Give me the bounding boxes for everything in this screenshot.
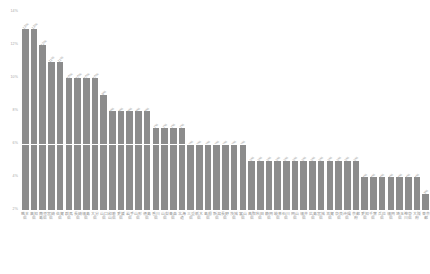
bar-slot[interactable]: 5% xyxy=(317,0,326,274)
x-axis-category-label: 石川県 xyxy=(282,212,291,220)
bar-slot[interactable]: 5% xyxy=(308,0,317,274)
bar[interactable] xyxy=(179,128,186,211)
bar-slot[interactable]: 8% xyxy=(134,0,143,274)
bar[interactable] xyxy=(283,161,290,211)
bar-slot[interactable]: 12% xyxy=(38,0,47,274)
bar-slot[interactable]: 6% xyxy=(212,0,221,274)
bar-slot[interactable]: 4% xyxy=(404,0,413,274)
bar-slot[interactable]: 10% xyxy=(65,0,74,274)
bar-slot[interactable]: 6% xyxy=(230,0,239,274)
bar[interactable] xyxy=(153,128,160,211)
bar[interactable] xyxy=(240,144,247,210)
bar-slot[interactable]: 4% xyxy=(413,0,422,274)
bar[interactable] xyxy=(83,78,90,210)
bar[interactable] xyxy=(335,161,342,211)
bar-slot[interactable]: 4% xyxy=(395,0,404,274)
bar-slot[interactable]: 4% xyxy=(369,0,378,274)
bar-slot[interactable]: 13% xyxy=(21,0,30,274)
bar[interactable] xyxy=(100,95,107,211)
bar[interactable] xyxy=(92,78,99,210)
bar-slot[interactable]: 5% xyxy=(299,0,308,274)
x-axis-category-label: 宮城県 xyxy=(317,212,326,220)
bar[interactable] xyxy=(22,29,29,211)
bar-slot[interactable]: 5% xyxy=(256,0,265,274)
bar[interactable] xyxy=(39,45,46,210)
bar-slot[interactable]: 9% xyxy=(99,0,108,274)
bar-slot[interactable]: 7% xyxy=(169,0,178,274)
y-axis-tick-label: 6% xyxy=(13,142,18,146)
bar-slot[interactable]: 4% xyxy=(386,0,395,274)
bar[interactable] xyxy=(126,111,133,210)
bar-slot[interactable]: 7% xyxy=(160,0,169,274)
bar-slot[interactable]: 8% xyxy=(117,0,126,274)
bar[interactable] xyxy=(248,161,255,211)
bar[interactable] xyxy=(370,177,377,210)
bar-slot[interactable]: 10% xyxy=(73,0,82,274)
bar-slot[interactable]: 10% xyxy=(91,0,100,274)
x-axis-category-label: 茨城県 xyxy=(230,212,239,220)
bar[interactable] xyxy=(292,161,299,211)
bar[interactable] xyxy=(74,78,81,210)
bar-slot[interactable]: 6% xyxy=(221,0,230,274)
bar[interactable] xyxy=(327,161,334,211)
bar-slot[interactable]: 10% xyxy=(82,0,91,274)
bar-slot[interactable]: 7% xyxy=(178,0,187,274)
bar[interactable] xyxy=(422,194,429,211)
bar[interactable] xyxy=(144,111,151,210)
bar[interactable] xyxy=(379,177,386,210)
bar[interactable] xyxy=(118,111,125,210)
bar-slot[interactable]: 4% xyxy=(360,0,369,274)
bar-slot[interactable]: 5% xyxy=(247,0,256,274)
bar-slot[interactable]: 8% xyxy=(108,0,117,274)
bar[interactable] xyxy=(170,128,177,211)
bar[interactable] xyxy=(109,111,116,210)
bar[interactable] xyxy=(361,177,368,210)
bar-slot[interactable]: 6% xyxy=(195,0,204,274)
bar-slot[interactable]: 5% xyxy=(326,0,335,274)
bar-slot[interactable]: 13% xyxy=(30,0,39,274)
bar[interactable] xyxy=(266,161,273,211)
x-axis-category-label: 山口県 xyxy=(99,212,108,220)
bar[interactable] xyxy=(318,161,325,211)
bar-slot[interactable]: 6% xyxy=(239,0,248,274)
bar[interactable] xyxy=(213,144,220,210)
bar[interactable] xyxy=(205,144,212,210)
bar-slot[interactable]: 5% xyxy=(352,0,361,274)
bar[interactable] xyxy=(187,144,194,210)
bar[interactable] xyxy=(414,177,421,210)
x-axis-category-label: 山梨県 xyxy=(160,212,169,220)
bar-slot[interactable]: 5% xyxy=(265,0,274,274)
bar[interactable] xyxy=(31,29,38,211)
bar-slot[interactable]: 11% xyxy=(47,0,56,274)
bar-slot[interactable]: 5% xyxy=(273,0,282,274)
bar[interactable] xyxy=(161,128,168,211)
bar[interactable] xyxy=(274,161,281,211)
bar-slot[interactable]: 7% xyxy=(152,0,161,274)
bar-slot[interactable]: 5% xyxy=(291,0,300,274)
bar-slot[interactable]: 6% xyxy=(186,0,195,274)
bar[interactable] xyxy=(300,161,307,211)
bar[interactable] xyxy=(388,177,395,210)
bar-slot[interactable]: 11% xyxy=(56,0,65,274)
bar[interactable] xyxy=(135,111,142,210)
bar-slot[interactable]: 3% xyxy=(421,0,430,274)
bar[interactable] xyxy=(48,62,55,211)
bar[interactable] xyxy=(231,144,238,210)
bar-slot[interactable]: 5% xyxy=(282,0,291,274)
bar-slot[interactable]: 6% xyxy=(204,0,213,274)
bar[interactable] xyxy=(309,161,316,211)
bar[interactable] xyxy=(344,161,351,211)
bar-slot[interactable]: 4% xyxy=(378,0,387,274)
bar-slot[interactable]: 8% xyxy=(143,0,152,274)
bar-slot[interactable]: 5% xyxy=(343,0,352,274)
bar-slot[interactable]: 5% xyxy=(334,0,343,274)
bar[interactable] xyxy=(196,144,203,210)
bar[interactable] xyxy=(257,161,264,211)
bar-slot[interactable]: 8% xyxy=(125,0,134,274)
bar[interactable] xyxy=(222,144,229,210)
bar[interactable] xyxy=(396,177,403,210)
bar[interactable] xyxy=(405,177,412,210)
bar[interactable] xyxy=(66,78,73,210)
bar[interactable] xyxy=(353,161,360,211)
bar[interactable] xyxy=(57,62,64,211)
